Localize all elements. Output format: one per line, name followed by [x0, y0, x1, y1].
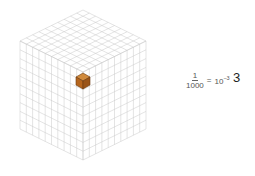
equation: 1 1000 = 10−3: [186, 71, 230, 90]
highlighted-small-cube: [76, 73, 90, 89]
subdivided-cube-diagram: [0, 0, 160, 176]
figure-label: 3: [233, 70, 240, 85]
exponent: −3: [223, 75, 229, 81]
numerator: 1: [192, 71, 198, 81]
power: 10−3: [214, 75, 229, 86]
equals-sign: =: [207, 76, 212, 85]
fraction: 1 1000: [186, 71, 204, 90]
denominator: 1000: [186, 81, 204, 90]
